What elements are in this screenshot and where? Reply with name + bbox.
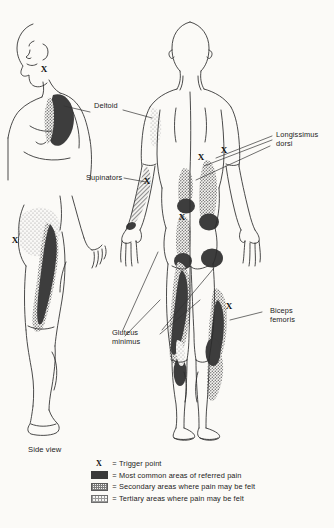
view-shoulder-profile [8,24,92,180]
trigger-point-longissimus-lower: X [179,212,186,222]
label-deltoid: Deltoid [94,102,118,111]
view-posterior-body [121,22,261,440]
legend-row-tertiary: = Tertiary areas where pain may be felt [88,493,288,505]
trigger-point-gluteus-minimus: X [12,235,19,245]
label-gluteus-minimus-line2: minimus [112,338,140,347]
legend-swatch-tertiary [88,495,110,503]
legend-label-primary: Most common areas of referred pain [119,471,242,480]
trigger-point-deltoid: X [41,64,48,74]
legend-row-trigger-point: X = Trigger point [88,458,288,470]
legend-swatch-primary [88,471,110,479]
legend-row-primary: = Most common areas of referred pain [88,470,288,482]
leader-lines [64,106,272,336]
caption-side-view: Side view [28,446,61,455]
trigger-point-x-icon: X [96,460,102,468]
legend: X = Trigger point = Most common areas of… [88,458,288,504]
legend-equals-1: = [110,471,119,480]
legend-label-tertiary: Tertiary areas where pain may be felt [119,494,244,503]
legend-swatch-secondary [88,483,110,491]
light-stipple-icon [91,495,108,503]
label-longissimus-dorsi-line2: dorsi [276,140,293,149]
anatomy-figure: X X X X X X X Deltoid Longissimus dorsi … [0,0,334,528]
solid-fill-icon [91,471,108,479]
view-side-hip [17,196,106,435]
legend-row-secondary: = Secondary areas where pain may be felt [88,481,288,493]
legend-label-trigger-point: Trigger point [119,459,162,468]
label-biceps-femoris-line2: femoris [270,316,295,325]
dense-stipple-icon [91,483,108,491]
label-supinators: Supinators [86,174,122,183]
trigger-point-longissimus-upper-left: X [198,152,205,162]
legend-swatch-trigger-point: X [88,460,110,468]
legend-equals-3: = [110,494,119,503]
trigger-point-supinator: X [144,176,151,186]
legend-equals-2: = [110,482,119,491]
legend-equals-0: = [110,459,119,468]
trigger-point-biceps-femoris: X [226,301,233,311]
legend-label-secondary: Secondary areas where pain may be felt [119,482,255,491]
trigger-point-longissimus-upper-right: X [221,145,228,155]
